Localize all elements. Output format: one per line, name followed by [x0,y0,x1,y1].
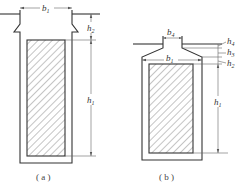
hatched-body-a [27,40,65,156]
caption-a: ( a ) [36,172,51,182]
label-h4-b: h4 [227,36,235,47]
foundation-diagram: b1 h2 h1 ( a ) b4 b1 [0,0,241,189]
label-h3-b: h3 [227,47,235,58]
label-b4-b: b4 [167,27,175,38]
caption-b: ( b ) [159,172,174,182]
panel-a: b1 h2 h1 ( a ) [0,2,100,182]
label-h2-b: h2 [227,58,235,69]
hatched-body-b [149,64,193,153]
panel-b: b4 b1 h4 h3 h2 h1 ( b ) [133,27,235,182]
